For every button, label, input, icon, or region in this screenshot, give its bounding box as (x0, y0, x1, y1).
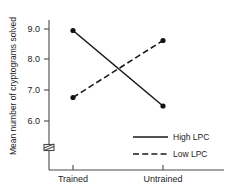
y-tick-label-7: 7.0 (27, 85, 40, 95)
legend-label-low-lpc: Low LPC (173, 149, 208, 159)
data-point-high-lpc-untrained (160, 103, 165, 108)
x-tick-label-trained: Trained (58, 174, 88, 184)
data-point-low-lpc-trained (70, 95, 75, 100)
y-tick-label-9: 9.0 (27, 24, 40, 34)
series-high-lpc (70, 28, 165, 109)
y-tick-label-8: 8.0 (27, 54, 40, 64)
data-point-low-lpc-untrained (160, 38, 165, 43)
chart-container: Mean number of cryptograms solved 9.0 8.… (0, 0, 229, 188)
axis-break-icon (44, 144, 54, 151)
line-chart: Mean number of cryptograms solved 9.0 8.… (0, 0, 229, 188)
legend-item-low-lpc: Low LPC (133, 149, 208, 159)
legend-label-high-lpc: High LPC (173, 132, 209, 142)
legend-item-high-lpc: High LPC (133, 132, 209, 142)
x-tick-label-untrained: Untrained (143, 174, 182, 184)
y-axis-label: Mean number of cryptograms solved (8, 17, 18, 155)
y-tick-label-6: 6.0 (27, 116, 40, 126)
chart-legend: High LPC Low LPC (133, 132, 209, 159)
series-high-lpc-line (73, 31, 163, 107)
data-point-high-lpc-trained (70, 28, 75, 33)
